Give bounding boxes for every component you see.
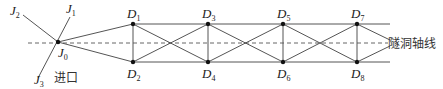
line-j0-j2: [23, 15, 58, 42]
label-d6: D6: [276, 66, 290, 83]
point-d6: [281, 60, 285, 64]
tunnel-axis-label: 隧洞轴线: [388, 36, 436, 51]
point-d3: [206, 22, 210, 26]
label-j2: J2: [10, 3, 20, 20]
point-d7: [355, 22, 359, 26]
line-j0-j1: [38, 17, 70, 78]
point-d8: [355, 60, 359, 64]
label-d4: D4: [201, 66, 215, 83]
tunnel-network-diagram: J2 J1 J0 J3 进口 D1 D2 D3 D4 D5 D6 D7 D8 隧…: [0, 0, 443, 89]
label-d3: D3: [201, 6, 215, 23]
line-j0-d1: [58, 24, 133, 42]
label-d8: D8: [350, 66, 364, 83]
label-j3: J3: [34, 72, 44, 89]
point-d5: [281, 22, 285, 26]
label-d5: D5: [276, 6, 290, 23]
point-d2: [131, 60, 135, 64]
label-d7: D7: [350, 6, 364, 23]
diag-d7-out: [357, 24, 390, 40]
point-j0: [56, 40, 60, 44]
entrance-label: 进口: [54, 71, 78, 85]
label-d1: D1: [126, 6, 140, 23]
point-d1: [131, 22, 135, 26]
label-d2: D2: [126, 66, 140, 83]
label-j1: J1: [66, 1, 76, 18]
line-j0-d2: [58, 42, 133, 62]
diag-d8-out: [357, 46, 390, 62]
point-d4: [206, 60, 210, 64]
label-j0: J0: [58, 45, 68, 62]
